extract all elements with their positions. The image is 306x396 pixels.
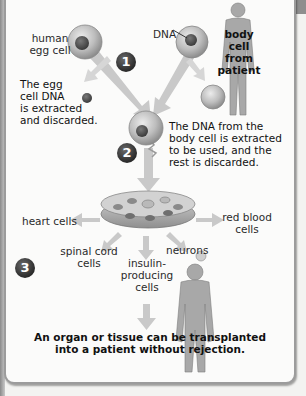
insulin-producing-cells-label: insulin-producingcells [120,257,174,293]
red-blood-cells-label: red bloodcells [220,211,274,235]
heart-cells-label: heart cells [22,215,77,227]
step-badge-3: 3 [15,258,35,278]
fused-cell [129,111,163,145]
step-badge-2: 2 [117,143,137,163]
step-badge-1: 1 [116,52,136,72]
body-dna-extracted-text: The DNA from thebody cell is extractedto… [169,120,282,168]
conclusion-text: An organ or tissue can be transplantedin… [20,331,280,355]
neurons-label: neurons [166,244,208,256]
egg-cell [68,25,102,59]
empty-cell [201,85,225,109]
patient-silhouette-bottom [176,264,214,372]
petri-dish [101,191,195,228]
body-cell-label: body cellfrompatient [214,28,264,76]
egg-dna-discarded-text: The eggcell DNAis extractedand discarded… [20,78,98,126]
dna-label: DNA [153,28,176,40]
spinal-cord-cells-label: spinal cordcells [60,245,118,269]
body-cell [176,26,208,58]
human-egg-cell-label: humanegg cell [28,32,72,56]
